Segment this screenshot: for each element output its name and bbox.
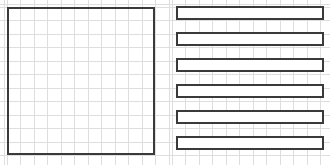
bar-5 <box>176 110 324 124</box>
figure-canvas: Two-panel line drawing: grid square and … <box>0 0 330 165</box>
bar-6 <box>176 136 324 150</box>
horizontal-bars-panel <box>165 0 330 165</box>
bar-4 <box>176 84 324 98</box>
grid-square-panel <box>0 0 165 165</box>
bar-2 <box>176 32 324 46</box>
bar-3 <box>176 58 324 72</box>
square-outline <box>7 7 155 155</box>
bar-1 <box>176 6 324 20</box>
